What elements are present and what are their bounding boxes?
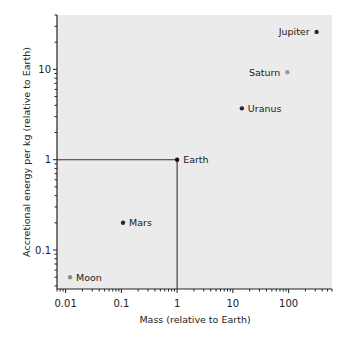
- y-tick-label: 1: [45, 154, 51, 165]
- x-tick-label: 0.1: [113, 298, 129, 309]
- x-tick-label: 100: [279, 298, 298, 309]
- point-marker: [175, 157, 179, 161]
- x-axis: 0.010.1110100: [55, 289, 332, 309]
- x-tick-label: 0.01: [55, 298, 77, 309]
- x-tick-label: 1: [174, 298, 180, 309]
- point-marker: [121, 221, 125, 225]
- point-label: Uranus: [248, 103, 282, 114]
- point-marker: [285, 70, 289, 74]
- accretional-energy-chart: 0.010.1110100 0.1110 MoonMarsEarthUranus…: [0, 0, 356, 341]
- y-tick-label: 10: [38, 64, 51, 75]
- y-axis: 0.1110: [35, 15, 57, 289]
- point-label: Earth: [183, 154, 208, 165]
- point-label: Moon: [76, 272, 102, 283]
- point-marker: [240, 106, 244, 110]
- point-label: Jupiter: [278, 26, 310, 37]
- plot-background: [57, 15, 332, 289]
- point-label: Mars: [129, 217, 152, 228]
- x-axis-label: Mass (relative to Earth): [139, 314, 250, 325]
- y-tick-label: 0.1: [35, 245, 51, 256]
- point-marker: [68, 275, 72, 279]
- y-axis-label: Accretional energy per kg (relative to E…: [21, 47, 32, 257]
- point-label: Saturn: [249, 67, 280, 78]
- x-tick-label: 10: [227, 298, 240, 309]
- point-marker: [314, 30, 318, 34]
